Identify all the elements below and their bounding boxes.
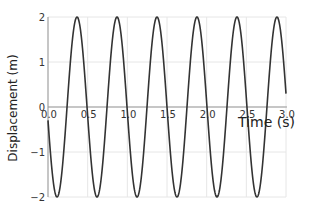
y-tick-label: 1 xyxy=(39,57,45,68)
y-tick-labels: −2−1012 xyxy=(30,12,45,203)
y-tick-label: 2 xyxy=(39,12,45,23)
x-tick-label: 0.5 xyxy=(81,109,97,120)
y-tick-label: −2 xyxy=(30,192,45,203)
displacement-chart: 0.00.51.01.52.02.53.0 −2−1012 Displaceme… xyxy=(0,0,311,206)
y-tick-label: 0 xyxy=(39,102,45,113)
x-axis-label: Time (s) xyxy=(237,114,295,130)
y-tick-label: −1 xyxy=(30,147,45,158)
y-axis-label: Displacement (m) xyxy=(6,54,20,161)
